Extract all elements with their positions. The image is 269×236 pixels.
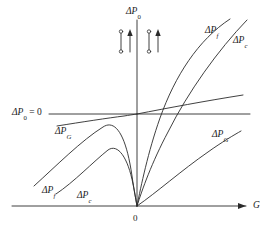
label-dpf-upper-right-text: ΔP [205,25,216,35]
label-dpg-left-text: ΔP [55,126,66,136]
upflow-arrow-2-head [155,29,160,36]
y-axis-title: ΔP0 [126,7,141,17]
upflow-arrow-1-head [127,29,132,36]
downflow-rod-1-top-circle [119,30,122,33]
label-dpg-right-subscript: G [223,136,228,143]
label-dpc-upper-right-subscript: c [244,42,247,49]
downflow-rod-2-bottom-circle [147,50,150,53]
curve-dpc-right [137,20,247,206]
y-axis-title-subscript: 0 [137,13,140,20]
curve-dpc-left [56,148,137,206]
downflow-rod-1-bottom-circle [119,50,122,53]
origin-label: 0 [133,214,138,223]
label-dpc-lower-left: ΔPc [77,191,91,201]
label-dpg-right-text: ΔP [212,129,223,139]
label-dpc-lower-left-text: ΔP [77,190,88,200]
y-axis-title-text: ΔP [126,6,137,16]
label-dpf-lower-left-text: ΔP [42,185,53,195]
curve-dpg-upper-left [57,114,137,126]
label-dpf-lower-left-subscript: f [53,192,55,199]
label-dpg-left: ΔPG [55,127,71,137]
curve-dpg-upper-right [137,95,243,114]
label-dpc-upper-right-text: ΔP [233,35,244,45]
zero-reference-label-tail: = 0 [27,107,42,117]
pressure-drop-diagram: ΔP0 ΔP0 = 0 ΔPf ΔPc ΔPG ΔPG ΔPf ΔPc 0 G [0,0,269,236]
zero-reference-label-text: ΔP [12,107,23,117]
label-dpg-left-subscript: G [66,133,71,140]
label-dpf-lower-left: ΔPf [42,186,55,196]
zero-reference-label: ΔP0 = 0 [12,108,42,118]
x-axis-arrowhead [238,203,246,209]
label-dpf-upper-right-subscript: f [216,32,218,39]
label-dpg-right: ΔPG [212,130,228,140]
label-dpf-upper-right: ΔPf [205,26,218,36]
label-dpc-upper-right: ΔPc [233,36,247,46]
curve-dpf-right [137,19,230,206]
label-dpc-lower-left-subscript: c [88,197,91,204]
plot-canvas [0,0,269,236]
x-axis-title: G [253,201,260,211]
downflow-rod-2-top-circle [147,30,150,33]
zero-reference-label-subscript: 0 [23,114,26,121]
